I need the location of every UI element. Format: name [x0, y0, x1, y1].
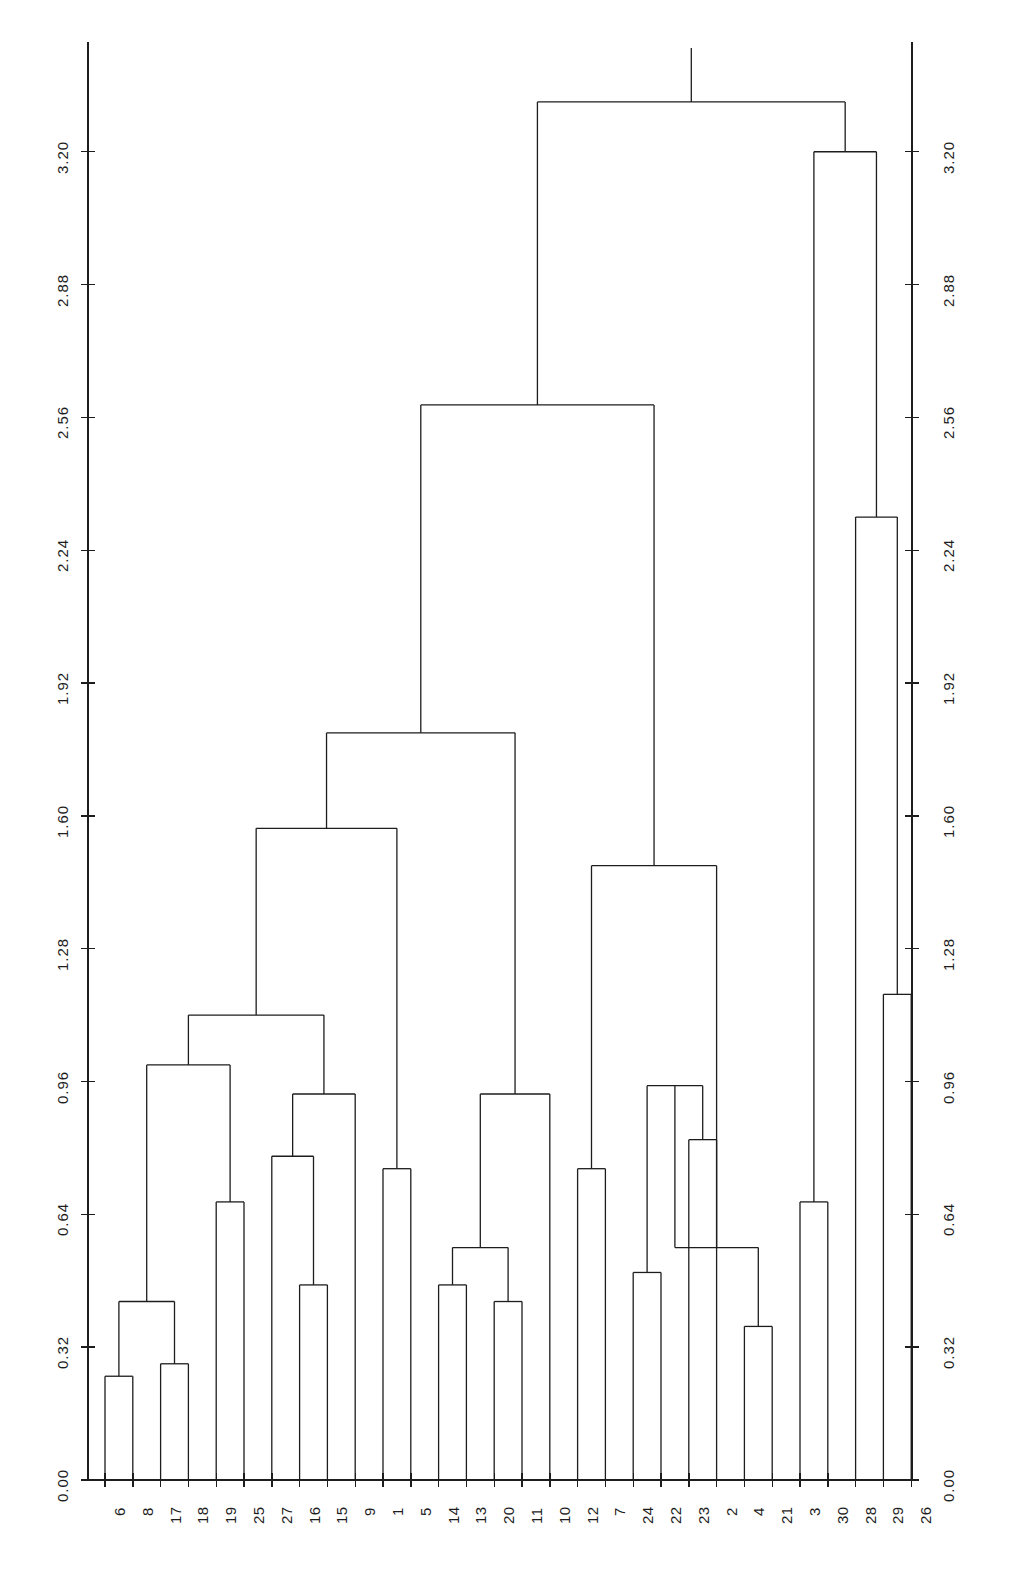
leaf-label-18: 18 [194, 1506, 211, 1524]
leaf-label-10: 10 [556, 1506, 573, 1524]
right-tick-1.28: 1.28 [940, 938, 957, 971]
left-tick-3.20: 3.20 [54, 141, 71, 174]
left-tick-1.60: 1.60 [54, 805, 71, 838]
leaf-label-29: 29 [889, 1506, 906, 1524]
plot-background [0, 0, 1010, 1588]
right-tick-1.60: 1.60 [940, 805, 957, 838]
left-tick-2.56: 2.56 [54, 406, 71, 439]
leaf-label-15: 15 [333, 1506, 350, 1524]
right-tick-2.24: 2.24 [940, 539, 957, 572]
leaf-label-3: 3 [806, 1507, 823, 1516]
leaf-label-30: 30 [834, 1506, 851, 1524]
leaf-label-28: 28 [862, 1506, 879, 1524]
right-tick-2.88: 2.88 [940, 273, 957, 306]
right-tick-0.00: 0.00 [940, 1469, 957, 1502]
leaf-label-1: 1 [389, 1507, 406, 1516]
leaf-label-17: 17 [167, 1506, 184, 1524]
right-tick-0.64: 0.64 [940, 1203, 957, 1236]
left-tick-2.88: 2.88 [54, 273, 71, 306]
right-tick-0.96: 0.96 [940, 1070, 957, 1103]
dendrogram-canvas [0, 0, 1010, 1588]
leaf-label-4: 4 [750, 1507, 767, 1516]
left-tick-0.64: 0.64 [54, 1203, 71, 1236]
left-tick-1.28: 1.28 [54, 938, 71, 971]
leaf-label-25: 25 [250, 1506, 267, 1524]
leaf-label-12: 12 [584, 1506, 601, 1524]
leaf-label-13: 13 [472, 1506, 489, 1524]
left-tick-0.32: 0.32 [54, 1336, 71, 1369]
leaf-label-26: 26 [917, 1506, 934, 1524]
dendrogram-figure: 0.000.320.640.961.281.601.922.242.562.88… [0, 0, 1010, 1588]
leaf-label-23: 23 [695, 1506, 712, 1524]
leaf-label-5: 5 [417, 1507, 434, 1516]
leaf-label-2: 2 [723, 1507, 740, 1516]
leaf-label-11: 11 [528, 1507, 545, 1524]
right-tick-1.92: 1.92 [940, 672, 957, 705]
leaf-label-8: 8 [139, 1507, 156, 1516]
right-tick-2.56: 2.56 [940, 406, 957, 439]
leaf-label-19: 19 [222, 1506, 239, 1524]
leaf-label-22: 22 [667, 1506, 684, 1524]
leaf-label-27: 27 [278, 1506, 295, 1524]
left-tick-0.96: 0.96 [54, 1070, 71, 1103]
leaf-label-14: 14 [445, 1506, 462, 1524]
leaf-label-20: 20 [500, 1506, 517, 1524]
left-tick-1.92: 1.92 [54, 672, 71, 705]
leaf-label-16: 16 [306, 1506, 323, 1524]
leaf-label-9: 9 [361, 1507, 378, 1516]
right-tick-0.32: 0.32 [940, 1336, 957, 1369]
leaf-label-21: 21 [778, 1506, 795, 1524]
left-tick-2.24: 2.24 [54, 539, 71, 572]
left-tick-0.00: 0.00 [54, 1469, 71, 1502]
leaf-label-7: 7 [611, 1507, 628, 1516]
leaf-label-6: 6 [111, 1507, 128, 1516]
right-tick-3.20: 3.20 [940, 141, 957, 174]
leaf-label-24: 24 [639, 1506, 656, 1524]
